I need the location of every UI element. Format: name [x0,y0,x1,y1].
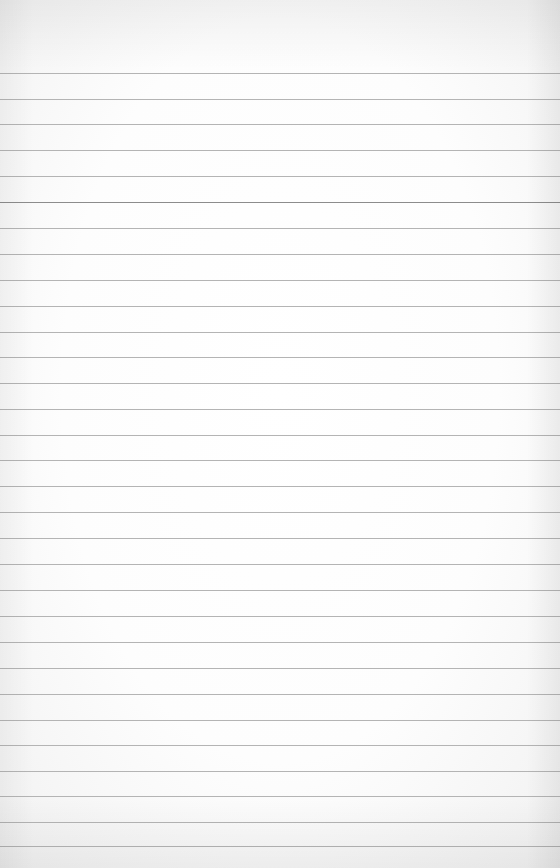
ruled-line [0,745,560,746]
ruled-line [0,280,560,281]
ruled-line [0,409,560,410]
ruled-line [0,668,560,669]
ruled-line [0,73,560,74]
ruled-line [0,590,560,591]
ruled-line [0,254,560,255]
ruled-line [0,332,560,333]
ruled-line [0,694,560,695]
ruled-line [0,822,560,823]
ruled-line [0,486,560,487]
ruled-line [0,771,560,772]
ruled-line [0,846,560,847]
ruled-line [0,642,560,643]
ruled-line [0,720,560,721]
ruled-line [0,460,560,461]
ruled-line [0,176,560,177]
ruled-line [0,538,560,539]
ruled-line [0,202,560,203]
ruled-line [0,512,560,513]
ruled-line [0,796,560,797]
ruled-line [0,564,560,565]
ruled-line [0,357,560,358]
ruled-line [0,99,560,100]
ruled-line [0,228,560,229]
ruled-line [0,124,560,125]
ruled-line [0,435,560,436]
ruled-line [0,150,560,151]
ruled-line [0,306,560,307]
lined-paper [0,0,560,868]
ruled-line [0,616,560,617]
ruled-line [0,383,560,384]
